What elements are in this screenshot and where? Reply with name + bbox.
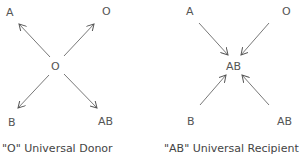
- arrow-from-a: [199, 23, 228, 55]
- universal-donor-diagram: A O O B AB "O" Universal Donor: [2, 5, 113, 155]
- arrow-from-ab: [242, 75, 269, 105]
- arrow-to-b: [18, 75, 49, 108]
- universal-recipient-diagram: A O AB B AB "AB" Universal Recipient: [164, 5, 299, 155]
- arrow-to-a: [19, 24, 50, 57]
- label-a: A: [6, 6, 14, 19]
- caption-universal-donor: "O" Universal Donor: [2, 142, 113, 155]
- blood-type-diagram: A O O B AB "O" Universal Donor A O AB B …: [0, 0, 302, 158]
- arrow-from-o: [241, 23, 269, 55]
- arrow-to-ab: [64, 74, 97, 108]
- label-center-ab: AB: [226, 60, 241, 73]
- label-b: B: [8, 116, 16, 129]
- label-b-right: B: [187, 115, 195, 128]
- label-o-right: O: [282, 5, 291, 18]
- label-ab: AB: [98, 115, 113, 128]
- label-ab-right: AB: [277, 115, 292, 128]
- label-center-o: O: [51, 60, 60, 73]
- arrow-to-o: [64, 24, 94, 56]
- arrow-from-b: [200, 75, 226, 105]
- label-o-top: O: [102, 5, 111, 18]
- caption-universal-recipient: "AB" Universal Recipient: [164, 142, 299, 155]
- label-a-right: A: [186, 5, 194, 18]
